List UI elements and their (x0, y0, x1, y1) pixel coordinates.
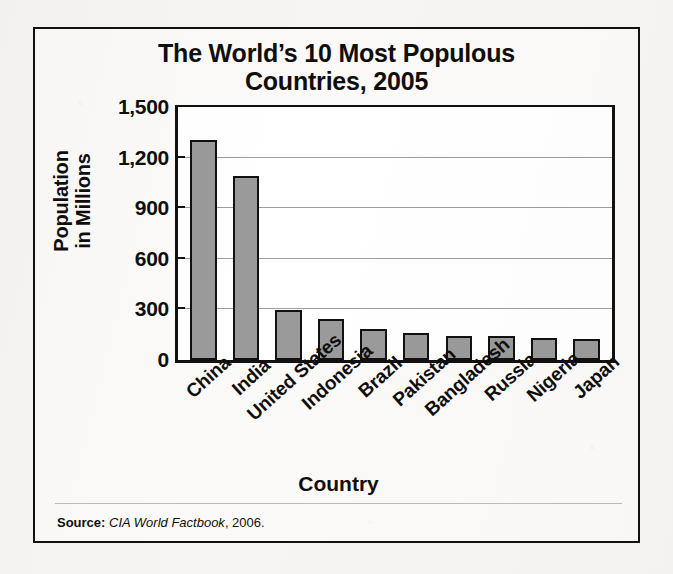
bar-slot (182, 107, 225, 360)
y-axis-tick-label: 0 (73, 348, 169, 372)
y-axis-tick-label: 300 (73, 297, 169, 321)
x-axis-tick-slot: Bangladesh (438, 363, 482, 473)
source-divider (55, 503, 622, 504)
x-axis-tick-labels: ChinaIndiaUnited StatesIndonesiaBrazilPa… (175, 363, 615, 473)
bar-slot (480, 107, 523, 360)
x-axis-tick-slot: Indonesia (308, 363, 352, 473)
source-work-title: CIA World Factbook (109, 515, 225, 530)
x-axis-tick-slot: China (179, 363, 223, 473)
bar-slot (395, 107, 438, 360)
bar-united-states (275, 310, 301, 360)
x-axis-tick-slot: Nigeria (524, 363, 568, 473)
bar-series (178, 107, 612, 360)
y-axis-tick-label: 1,200 (73, 146, 169, 170)
y-axis-tick-label: 600 (73, 247, 169, 271)
bar-china (190, 140, 216, 360)
plot-wrapper: Population in Millions 03006009001,2001,… (35, 29, 642, 545)
x-axis-tick-slot: Pakistan (395, 363, 439, 473)
bar-slot (565, 107, 608, 360)
bar-nigeria (531, 338, 557, 360)
bar-slot (352, 107, 395, 360)
x-axis-tick-slot: Brazil (351, 363, 395, 473)
chart-figure-frame: The World’s 10 Most Populous Countries, … (33, 27, 640, 543)
x-axis-title: Country (35, 472, 642, 496)
y-axis-tick-label: 1,500 (73, 95, 169, 119)
bar-slot (438, 107, 481, 360)
x-axis-tick-slot: United States (265, 363, 309, 473)
bar-pakistan (403, 333, 429, 360)
x-axis-tick-slot: Japan (567, 363, 611, 473)
source-label: Source: (57, 515, 105, 530)
bar-india (233, 176, 259, 360)
source-note: Source: CIA World Factbook, 2006. (57, 515, 265, 530)
y-axis-tick-label: 900 (73, 196, 169, 220)
plot-area (175, 105, 615, 363)
bar-slot (310, 107, 353, 360)
bar-slot (267, 107, 310, 360)
source-year: , 2006. (225, 515, 265, 530)
x-axis-tick-slot: Russia (481, 363, 525, 473)
bar-slot (523, 107, 566, 360)
y-axis-tick-labels: 03006009001,2001,500 (65, 29, 169, 545)
bar-slot (225, 107, 268, 360)
